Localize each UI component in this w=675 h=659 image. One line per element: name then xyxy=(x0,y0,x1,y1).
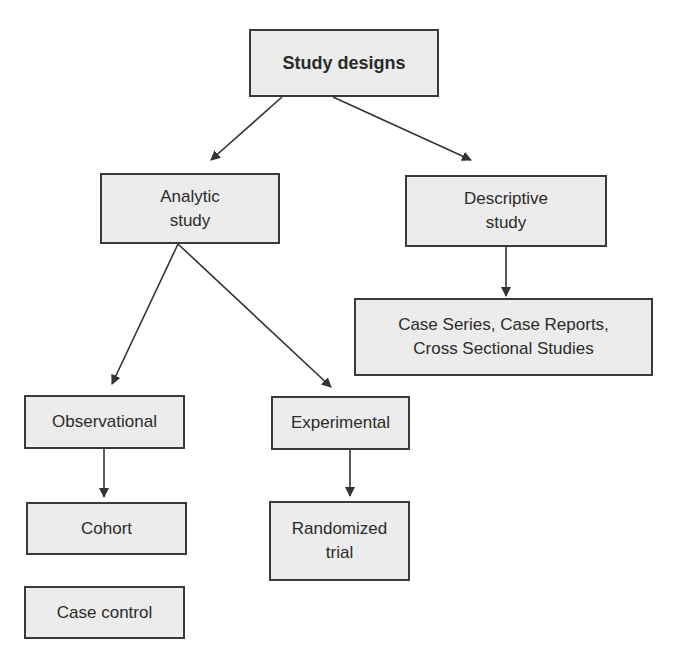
node-case-control: Case control xyxy=(24,586,185,639)
arrow-root-to-analytic xyxy=(211,97,282,160)
node-experimental: Experimental xyxy=(271,396,410,450)
arrow-analytic-to-observational xyxy=(112,244,178,384)
arrow-analytic-to-experimental xyxy=(178,244,331,387)
node-study-designs: Study designs xyxy=(249,29,439,97)
node-randomized-trial: Randomized trial xyxy=(269,501,410,581)
node-observational: Observational xyxy=(24,395,185,449)
arrow-root-to-descriptive xyxy=(333,97,471,160)
node-analytic-study: Analytic study xyxy=(100,173,280,244)
node-cohort: Cohort xyxy=(26,502,187,555)
node-descriptive-study: Descriptive study xyxy=(405,175,607,247)
node-descriptive-types: Case Series, Case Reports, Cross Section… xyxy=(354,298,653,376)
